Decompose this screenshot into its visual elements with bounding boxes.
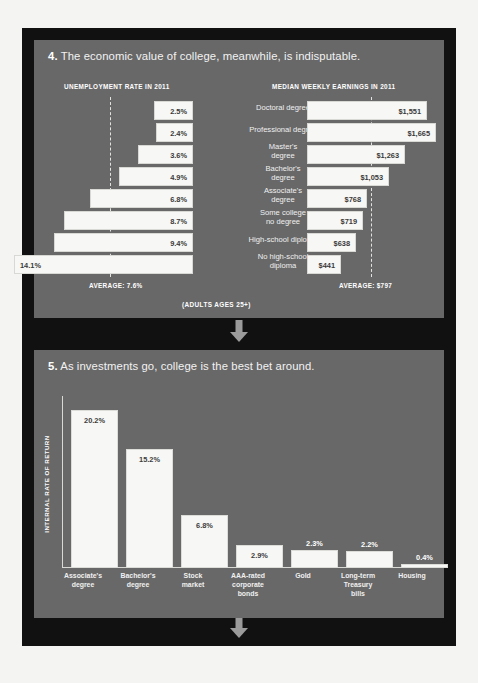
earnings-bar-masters: $1,263 bbox=[307, 145, 405, 164]
table-row: 14.1% bbox=[34, 254, 194, 275]
earnings-value-no-diploma: $441 bbox=[319, 260, 335, 269]
irr-value-housing: 0.4% bbox=[416, 553, 433, 562]
y-axis-label: INTERNAL RATE OF RETURN bbox=[41, 398, 53, 570]
unemployment-value-no-diploma: 14.1% bbox=[20, 260, 41, 269]
irr-value-associates-degree: 20.2% bbox=[84, 416, 105, 425]
earnings-value-doctoral: $1,551 bbox=[398, 106, 421, 115]
panel-4-headline-text: The economic value of college, meanwhile… bbox=[61, 50, 361, 62]
earnings-bar-professional: $1,665 bbox=[307, 123, 436, 142]
irr-bar-bachelors-degree: 15.2% bbox=[126, 449, 173, 568]
table-row: 4.9% bbox=[34, 166, 194, 187]
earnings-bar-no-diploma: $441 bbox=[307, 255, 341, 274]
earnings-bar-associates: $768 bbox=[307, 189, 367, 208]
unemployment-value-doctoral: 2.5% bbox=[170, 106, 187, 115]
earnings-bar-doctoral: $1,551 bbox=[307, 101, 427, 120]
irr-bar-associates-degree: 20.2% bbox=[71, 410, 118, 568]
unemployment-value-bachelors: 4.9% bbox=[170, 172, 187, 181]
panel-5-headline-text: As investments go, college is the best b… bbox=[60, 360, 314, 372]
earnings-value-associates: $768 bbox=[345, 194, 361, 203]
earnings-value-professional: $1,665 bbox=[407, 128, 430, 137]
panel-4-economic-value: 4. The economic value of college, meanwh… bbox=[34, 40, 444, 318]
y-axis-label-wrap: INTERNAL RATE OF RETURN bbox=[40, 398, 54, 570]
irr-value-long-term-treasury-bills: 2.2% bbox=[361, 540, 378, 549]
unemployment-value-high-school: 9.4% bbox=[170, 238, 187, 247]
earnings-bar-high-school: $638 bbox=[307, 233, 356, 252]
irr-value-gold: 2.3% bbox=[306, 539, 323, 548]
unemployment-bar-bachelors: 4.9% bbox=[119, 167, 193, 186]
irr-value-stock-market: 6.8% bbox=[196, 521, 213, 530]
earnings-value-bachelors: $1,053 bbox=[360, 172, 383, 181]
table-row: 2.5% bbox=[34, 100, 194, 121]
irr-value-aaa-corporate-bonds: 2.9% bbox=[251, 551, 268, 560]
table-row: $1,551 bbox=[307, 100, 442, 121]
unemployment-bar-no-diploma: 14.1% bbox=[14, 255, 193, 274]
table-row: 2.4% bbox=[34, 122, 194, 143]
panel-4-footnote: (ADULTS AGES 25+) bbox=[182, 301, 251, 308]
panel-4-headline: 4. The economic value of college, meanwh… bbox=[48, 50, 360, 62]
table-row: 8.7% bbox=[34, 210, 194, 231]
unemployment-value-professional: 2.4% bbox=[170, 128, 187, 137]
unemployment-bar-masters: 3.6% bbox=[138, 145, 193, 164]
irr-bar-chart: 20.2% 15.2% 6.8% 2.9% 2.3% 2.2% 0.4% bbox=[62, 396, 430, 568]
irr-value-bachelors-degree: 15.2% bbox=[139, 455, 160, 464]
irr-bar-long-term-treasury-bills: 2.2% bbox=[346, 551, 393, 568]
earnings-chart-title: MEDIAN WEEKLY EARNINGS IN 2011 bbox=[272, 83, 395, 90]
table-row: 6.8% bbox=[34, 188, 194, 209]
x-label-housing: Housing bbox=[374, 572, 450, 581]
unemployment-value-associates: 6.8% bbox=[170, 194, 187, 203]
irr-bar-aaa-corporate-bonds: 2.9% bbox=[236, 545, 283, 568]
irr-bar-gold: 2.3% bbox=[291, 550, 338, 568]
unemployment-bar-professional: 2.4% bbox=[156, 123, 193, 142]
unemployment-bar-doctoral: 2.5% bbox=[154, 101, 193, 120]
panel-5-headline: 5. As investments go, college is the bes… bbox=[48, 360, 315, 372]
irr-bar-stock-market: 6.8% bbox=[181, 515, 228, 568]
table-row: $441 bbox=[307, 254, 442, 275]
unemployment-bar-high-school: 9.4% bbox=[54, 233, 193, 252]
earnings-average-label: AVERAGE: $797 bbox=[339, 282, 392, 289]
earnings-bar-some-college: $719 bbox=[307, 211, 363, 230]
unemployment-bar-associates: 6.8% bbox=[90, 189, 193, 208]
table-row: $1,053 bbox=[307, 166, 442, 187]
panel-4-number: 4. bbox=[48, 50, 58, 62]
unemployment-bar-some-college: 8.7% bbox=[64, 211, 193, 230]
earnings-value-masters: $1,263 bbox=[376, 150, 399, 159]
table-row: 9.4% bbox=[34, 232, 194, 253]
table-row: $638 bbox=[307, 232, 442, 253]
table-row: 3.6% bbox=[34, 144, 194, 165]
table-row: $1,665 bbox=[307, 122, 442, 143]
unemployment-chart-title: UNEMPLOYMENT RATE IN 2011 bbox=[64, 83, 170, 90]
panel-5-number: 5. bbox=[48, 360, 58, 372]
unemployment-value-masters: 3.6% bbox=[170, 150, 187, 159]
irr-bar-housing: 0.4% bbox=[401, 564, 448, 568]
table-row: $719 bbox=[307, 210, 442, 231]
y-axis-line bbox=[62, 396, 63, 568]
unemployment-average-label: AVERAGE: 7.6% bbox=[89, 282, 143, 289]
infographic-page: 4. The economic value of college, meanwh… bbox=[0, 0, 478, 683]
table-row: $1,263 bbox=[307, 144, 442, 165]
earnings-value-high-school: $638 bbox=[334, 238, 350, 247]
table-row: $768 bbox=[307, 188, 442, 209]
earnings-value-some-college: $719 bbox=[341, 216, 357, 225]
unemployment-value-some-college: 8.7% bbox=[170, 216, 187, 225]
earnings-bar-bachelors: $1,053 bbox=[307, 167, 389, 186]
